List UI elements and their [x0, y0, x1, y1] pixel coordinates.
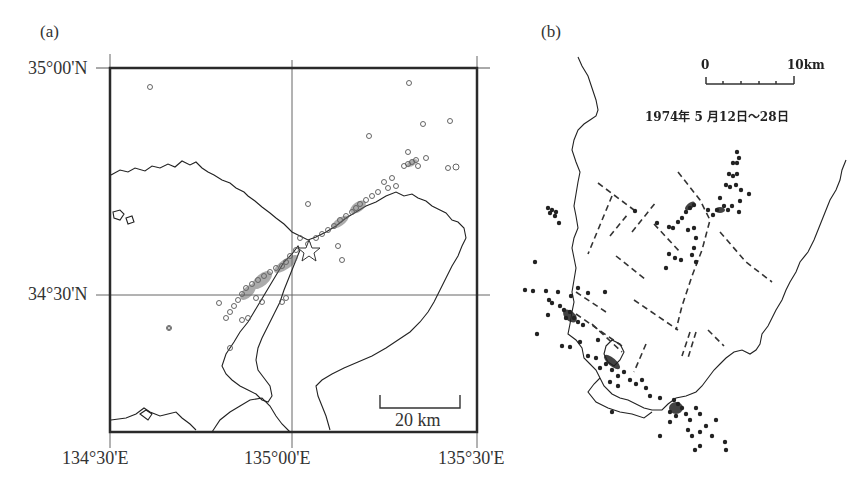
scale-end-label: 10km — [787, 58, 825, 72]
epicenter-circles — [148, 81, 460, 351]
fault-lines — [576, 172, 772, 372]
panel-a-map — [96, 54, 490, 448]
scale-bar-b — [706, 76, 794, 84]
panel-b-label: (b) — [541, 22, 561, 42]
map-figure — [0, 0, 860, 488]
aftershock-dots — [523, 150, 751, 452]
date-range-label: 1974年 5 月12日～28日 — [645, 107, 789, 124]
scale-bar-a — [380, 395, 460, 408]
epicenter-cluster — [237, 157, 418, 302]
mainshock-star-icon — [298, 240, 320, 261]
scale-start-label: 0 — [701, 58, 709, 72]
